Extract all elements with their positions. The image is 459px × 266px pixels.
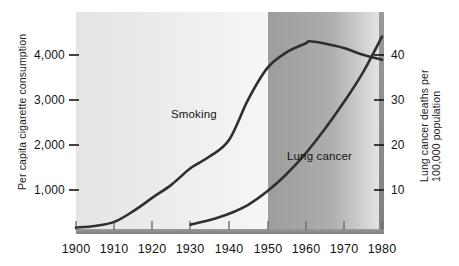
right-tick-label-40: 40 [391, 48, 405, 62]
right-tick-label-10: 10 [391, 183, 405, 197]
left-tick-label-1000: 1,000 [34, 183, 65, 197]
x-tick-label-1900: 1900 [62, 242, 91, 256]
left-tick-label-2000: 2,000 [34, 138, 65, 152]
series-annotation-lung-cancer: Lung cancer [287, 150, 352, 162]
series-annotation-smoking: Smoking [171, 108, 217, 120]
right-tick-label-30: 30 [391, 93, 405, 107]
left-axis-title: Per capita cigarette consumption [16, 34, 28, 190]
chart-figure: 4,000 3,000 2,000 1,000 Per capita cigar… [0, 0, 459, 266]
x-tick-label-1980: 1980 [368, 242, 397, 256]
smoking-vs-lung-cancer-chart: 4,000 3,000 2,000 1,000 Per capita cigar… [0, 0, 459, 266]
x-tick-label-1930: 1930 [176, 242, 205, 256]
left-tick-label-4000: 4,000 [34, 48, 65, 62]
x-tick-label-1950: 1950 [254, 242, 283, 256]
right-tick-label-20: 20 [391, 138, 405, 152]
x-tick-label-1910: 1910 [100, 242, 129, 256]
x-tick-label-1970: 1970 [330, 242, 359, 256]
plot-frame-right [379, 12, 384, 234]
x-tick-label-1920: 1920 [138, 242, 167, 256]
plot-frame-bottom [76, 229, 384, 234]
right-axis-title-line2: 100,000 population [430, 91, 442, 182]
left-tick-label-3000: 3,000 [34, 93, 65, 107]
x-tick-label-1940: 1940 [215, 242, 244, 256]
right-axis-title-line1: Lung cancer deaths per [418, 69, 430, 182]
x-tick-label-1960: 1960 [292, 242, 321, 256]
